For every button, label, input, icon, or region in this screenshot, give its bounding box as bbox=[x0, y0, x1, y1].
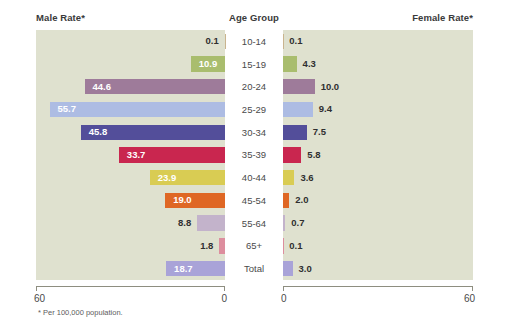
male-bar-value: 8.8 bbox=[178, 218, 191, 228]
female-bar-cell: 5.8 bbox=[283, 147, 473, 162]
male-bar[interactable]: 23.9 bbox=[150, 170, 225, 185]
female-bar-cell: 2.0 bbox=[283, 193, 473, 208]
male-bar-value: 23.9 bbox=[158, 173, 177, 183]
bar-row: 1.865+0.1 bbox=[0, 235, 508, 258]
female-bar-value: 10.0 bbox=[321, 82, 340, 92]
male-bar-cell: 19.0 bbox=[36, 193, 225, 208]
age-group-label: Total bbox=[225, 257, 283, 280]
female-bar-value: 7.5 bbox=[313, 127, 326, 137]
male-bar-value: 55.7 bbox=[58, 105, 77, 115]
male-bar[interactable]: 45.8 bbox=[81, 125, 225, 140]
male-bar-cell: 44.6 bbox=[36, 79, 225, 94]
female-bar-cell: 4.3 bbox=[283, 56, 473, 71]
bar-row: 18.7Total3.0 bbox=[0, 257, 508, 280]
bar-row: 0.110-140.1 bbox=[0, 30, 508, 53]
male-bar-cell: 8.8 bbox=[36, 215, 225, 230]
female-bar[interactable] bbox=[283, 193, 289, 208]
female-bar[interactable] bbox=[283, 79, 315, 94]
female-bar-cell: 9.4 bbox=[283, 102, 473, 117]
male-bar[interactable]: 18.7 bbox=[166, 261, 225, 276]
male-bar[interactable]: 33.7 bbox=[119, 147, 225, 162]
female-bar[interactable] bbox=[283, 125, 307, 140]
age-group-label: 65+ bbox=[225, 235, 283, 258]
female-bar-cell: 7.5 bbox=[283, 125, 473, 140]
female-bar-cell: 3.0 bbox=[283, 261, 473, 276]
male-bar-cell: 18.7 bbox=[36, 261, 225, 276]
female-bar[interactable] bbox=[283, 147, 301, 162]
female-bar-value: 4.3 bbox=[303, 59, 316, 69]
male-bar[interactable]: 44.6 bbox=[85, 79, 225, 94]
male-bar-cell: 10.9 bbox=[36, 56, 225, 71]
female-bar-value: 0.1 bbox=[289, 241, 302, 251]
bar-row: 23.940-443.6 bbox=[0, 166, 508, 189]
male-bar[interactable]: 55.7 bbox=[50, 102, 225, 117]
male-bar-value: 45.8 bbox=[89, 127, 108, 137]
female-bar[interactable] bbox=[283, 102, 313, 117]
age-group-label: 55-64 bbox=[225, 212, 283, 235]
axis-tick bbox=[283, 286, 284, 291]
male-bar-value: 19.0 bbox=[173, 196, 192, 206]
female-bar-value: 5.8 bbox=[307, 150, 320, 160]
female-bar-cell: 3.6 bbox=[283, 170, 473, 185]
age-group-label: 35-39 bbox=[225, 144, 283, 167]
female-bar[interactable] bbox=[283, 56, 297, 71]
bar-row: 45.830-347.5 bbox=[0, 121, 508, 144]
female-bar-cell: 0.7 bbox=[283, 215, 473, 230]
female-bar-value: 9.4 bbox=[319, 105, 332, 115]
male-bar-value: 10.9 bbox=[199, 59, 218, 69]
male-bar-value: 1.8 bbox=[200, 241, 213, 251]
male-bar-cell: 55.7 bbox=[36, 102, 225, 117]
bar-row: 33.735-395.8 bbox=[0, 144, 508, 167]
age-group-label: 40-44 bbox=[225, 166, 283, 189]
female-bar-cell: 0.1 bbox=[283, 238, 473, 253]
male-bar-value: 0.1 bbox=[205, 37, 218, 47]
axis-tick-label-female-60: 60 bbox=[464, 293, 475, 304]
age-group-label: 15-19 bbox=[225, 53, 283, 76]
female-bar-value: 0.1 bbox=[289, 37, 302, 47]
female-bar-cell: 0.1 bbox=[283, 34, 473, 49]
male-bar[interactable]: 19.0 bbox=[165, 193, 225, 208]
male-bar[interactable]: 10.9 bbox=[191, 56, 225, 71]
male-bar-value: 18.7 bbox=[174, 264, 193, 274]
male-bar-value: 33.7 bbox=[127, 150, 146, 160]
male-bar-cell: 23.9 bbox=[36, 170, 225, 185]
female-bar-value: 3.0 bbox=[299, 264, 312, 274]
axis-line bbox=[283, 286, 473, 287]
bar-row: 8.855-640.7 bbox=[0, 212, 508, 235]
female-bar-cell: 10.0 bbox=[283, 79, 473, 94]
male-bar-cell: 45.8 bbox=[36, 125, 225, 140]
female-bar-value: 3.6 bbox=[300, 173, 313, 183]
bar-row: 55.725-299.4 bbox=[0, 98, 508, 121]
male-bar[interactable] bbox=[197, 215, 225, 230]
male-bar-cell: 1.8 bbox=[36, 238, 225, 253]
paired-bar-chart: Male Rate* Age Group Female Rate* 0.110-… bbox=[0, 0, 508, 330]
bar-row: 19.045-542.0 bbox=[0, 189, 508, 212]
female-rate-header: Female Rate* bbox=[0, 12, 473, 23]
age-group-label: 45-54 bbox=[225, 189, 283, 212]
female-bar[interactable] bbox=[283, 170, 294, 185]
female-bar[interactable] bbox=[283, 261, 293, 276]
axis-line bbox=[36, 286, 225, 287]
axis-tick-label-male-60: 60 bbox=[34, 293, 45, 304]
male-bar-cell: 0.1 bbox=[36, 34, 225, 49]
age-group-label: 25-29 bbox=[225, 98, 283, 121]
female-bar-value: 2.0 bbox=[295, 196, 308, 206]
age-group-label: 10-14 bbox=[225, 30, 283, 53]
male-axis: 60 0 bbox=[36, 286, 225, 294]
male-bar-cell: 33.7 bbox=[36, 147, 225, 162]
axis-tick-label-female-0: 0 bbox=[281, 293, 287, 304]
axis-tick-label-male-0: 0 bbox=[221, 293, 227, 304]
age-group-label: 30-34 bbox=[225, 121, 283, 144]
female-bar-value: 0.7 bbox=[291, 218, 304, 228]
bar-rows: 0.110-140.110.915-194.344.620-2410.055.7… bbox=[0, 30, 508, 280]
footnote: * Per 100,000 population. bbox=[38, 308, 123, 317]
female-axis: 0 60 bbox=[283, 286, 473, 294]
axis-tick bbox=[36, 286, 37, 291]
age-group-label: 20-24 bbox=[225, 75, 283, 98]
male-bar-value: 44.6 bbox=[93, 82, 112, 92]
bar-row: 10.915-194.3 bbox=[0, 53, 508, 76]
axis-tick bbox=[472, 286, 473, 291]
female-bar[interactable] bbox=[283, 215, 285, 230]
axis-tick bbox=[224, 286, 225, 291]
bar-row: 44.620-2410.0 bbox=[0, 75, 508, 98]
